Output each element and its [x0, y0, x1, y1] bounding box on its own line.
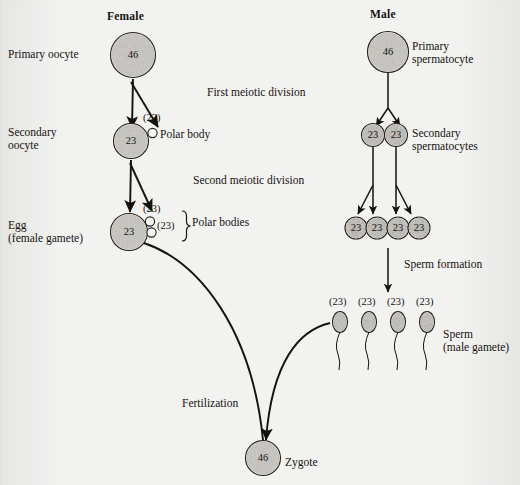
count-sperm-4: (23): [416, 296, 434, 309]
label-sperm-formation: Sperm formation: [404, 258, 482, 271]
heading-male: Male: [370, 8, 396, 21]
cell-secondary-spermatocyte-1: 23: [362, 124, 385, 147]
polar-bodies-brace: [182, 211, 191, 241]
count-first-polar-body: (23): [143, 112, 161, 125]
label-sperm: Sperm (male gamete): [443, 328, 509, 353]
curve-fertilization-sperm: [266, 323, 330, 440]
cell-spermatid-4: 23: [408, 217, 430, 239]
label-fertilization: Fertilization: [182, 397, 238, 410]
label-zygote: Zygote: [285, 456, 318, 469]
cell-spermatid-1: 23: [345, 217, 367, 239]
diagram-canvas: 46 23 23 46: [0, 0, 520, 485]
label-secondary-spermatocytes: Secondary spermatocytes: [412, 127, 478, 152]
label-egg: Egg (female gamete): [8, 219, 83, 244]
cell-primary-spermatocyte: 46: [368, 32, 409, 73]
cell-count-zygote: 46: [258, 452, 269, 463]
arrow-male-first-left: [376, 108, 388, 126]
label-first-meiotic-division: First meiotic division: [207, 86, 305, 99]
cell-count-secondary-spermatocyte-2: 23: [391, 129, 402, 140]
sperm-4: [420, 312, 435, 371]
label-polar-bodies: Polar bodies: [192, 216, 249, 229]
cell-secondary-spermatocyte-2: 23: [385, 124, 408, 147]
cell-secondary-oocyte: 23: [114, 124, 149, 159]
count-sperm-3: (23): [387, 296, 405, 309]
sperm-1: [333, 312, 348, 371]
cell-spermatid-2: 23: [366, 217, 388, 239]
label-polar-body: Polar body: [160, 128, 210, 141]
cell-primary-oocyte: 46: [111, 33, 156, 78]
cell-first-polar-body: [148, 128, 157, 137]
label-second-meiotic-division: Second meiotic division: [193, 174, 304, 187]
cell-count-spermatid-3: 23: [393, 222, 404, 233]
count-polar-body-a: (23): [143, 203, 161, 216]
cell-count-primary-oocyte: 46: [128, 49, 139, 60]
cell-polar-body-b: [147, 228, 156, 237]
heading-female: Female: [107, 10, 144, 23]
arrow-spermatid-1: [358, 185, 373, 214]
cell-polar-body-a: [145, 217, 154, 226]
cell-count-primary-spermatocyte: 46: [383, 46, 394, 57]
count-sperm-2: (23): [358, 296, 376, 309]
cell-egg: 23: [111, 214, 148, 251]
cell-count-spermatid-4: 23: [414, 222, 425, 233]
count-sperm-1: (23): [329, 296, 347, 309]
cell-count-spermatid-1: 23: [351, 222, 362, 233]
curve-fertilization-egg: [144, 243, 263, 440]
cell-zygote: 46: [246, 441, 281, 476]
count-polar-body-b: (23): [157, 220, 175, 233]
label-primary-spermatocyte: Primary spermatocyte: [412, 40, 473, 65]
arrow-spermatid-4: [396, 185, 411, 214]
sperm-3: [391, 312, 406, 371]
sperm-2: [362, 312, 377, 371]
cell-count-secondary-oocyte: 23: [126, 135, 137, 146]
arrow-second-division-main: [130, 160, 131, 212]
cell-count-secondary-spermatocyte-1: 23: [368, 129, 379, 140]
cell-count-egg: 23: [124, 226, 135, 237]
label-secondary-oocyte: Secondary oocyte: [8, 126, 57, 151]
cell-count-spermatid-2: 23: [372, 222, 383, 233]
cell-spermatid-3: 23: [387, 217, 409, 239]
label-primary-oocyte: Primary oocyte: [8, 48, 79, 61]
